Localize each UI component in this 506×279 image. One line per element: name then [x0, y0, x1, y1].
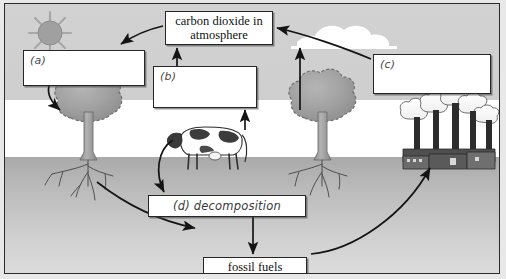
arrow-c-to-co2 [277, 28, 371, 59]
box-answer-a[interactable]: (a) [23, 50, 145, 86]
carbon-cycle-diagram: carbon dioxide in atmosphere (a) (b) (c)… [0, 0, 506, 279]
box-co2-text: carbon dioxide in atmosphere [166, 12, 272, 44]
box-b-text [154, 67, 256, 107]
arrow-cow-to-decomposition [159, 140, 173, 192]
box-c-text [374, 55, 490, 93]
arrow-fossil-fuels-to-factory [311, 168, 430, 254]
box-fossil-fuels-text: fossil fuels [204, 258, 306, 274]
box-a-text [24, 51, 144, 85]
box-fossil-fuels[interactable]: fossil fuels [203, 257, 307, 274]
box-decomposition[interactable]: (d) decomposition [148, 195, 306, 217]
box-carbon-dioxide-atmosphere[interactable]: carbon dioxide in atmosphere [165, 11, 273, 45]
arrow-a-to-tree [48, 86, 60, 110]
box-d-text: (d) decomposition [149, 196, 305, 216]
box-answer-b[interactable]: (b) [153, 66, 257, 108]
arrow-co2-to-a [121, 26, 163, 44]
box-answer-c[interactable]: (c) [373, 54, 491, 94]
diagram-frame: carbon dioxide in atmosphere (a) (b) (c)… [4, 3, 500, 274]
